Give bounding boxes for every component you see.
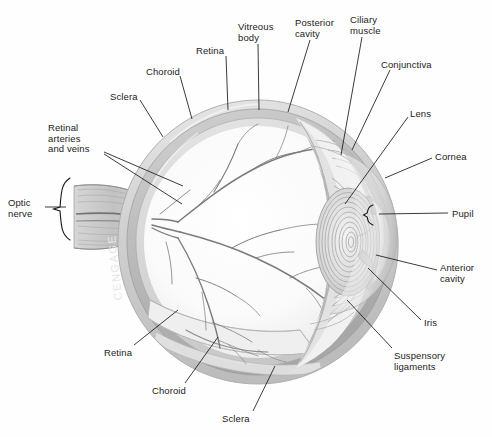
leader-iris (368, 268, 421, 320)
leader-suspensory-ligaments (347, 300, 392, 348)
leader-anterior-cavity (376, 255, 437, 270)
leader-choroid-bottom (185, 337, 218, 383)
label-choroid-top: Choroid (146, 67, 180, 78)
label-anterior-cavity: Anterior cavity (440, 263, 474, 284)
label-sclera-top: Sclera (110, 92, 138, 103)
label-retinal-arteries-and-veins: Retinal arteries and veins (48, 123, 90, 155)
label-cornea: Cornea (435, 152, 467, 163)
label-ciliary-muscle: Ciliary muscle (350, 15, 381, 36)
label-conjunctiva: Conjunctiva (381, 60, 432, 71)
label-sclera-bottom: Sclera (222, 414, 250, 425)
label-vitreous-body: Vitreous body (238, 22, 273, 43)
leader-posterior-cavity (288, 40, 310, 112)
leader-conjunctiva (352, 70, 390, 150)
label-retina-top: Retina (196, 46, 224, 57)
eye-anatomy-figure: CENGAGE Retinal arteries and veinsSclera… (0, 0, 492, 437)
label-choroid-bottom: Choroid (152, 386, 186, 397)
leader-sclera-bottom (253, 366, 275, 411)
label-iris: Iris (424, 318, 437, 329)
optic-nerve-brace (54, 178, 70, 240)
label-retina-bottom: Retina (104, 348, 132, 359)
leader-ciliary-muscle (341, 37, 362, 155)
label-pupil: Pupil (452, 209, 474, 220)
leader-vitreous-body (258, 44, 259, 110)
leader-retina-bottom (134, 310, 178, 345)
leader-retinal-vessels-b (104, 154, 182, 204)
leader-retina-top (226, 56, 228, 110)
pupil-brace (364, 205, 374, 225)
label-suspensory-ligaments: Suspensory ligaments (394, 351, 445, 372)
leader-cornea (385, 158, 432, 178)
leader-choroid-top (180, 76, 192, 119)
leader-sclera-top (140, 100, 163, 137)
label-optic-nerve: Optic nerve (8, 198, 32, 219)
label-lens: Lens (410, 109, 431, 120)
leader-retinal-vessels-a (104, 152, 183, 186)
label-posterior-cavity: Posterior cavity (295, 18, 334, 39)
leader-lens (345, 117, 408, 204)
leader-pupil (379, 213, 448, 214)
